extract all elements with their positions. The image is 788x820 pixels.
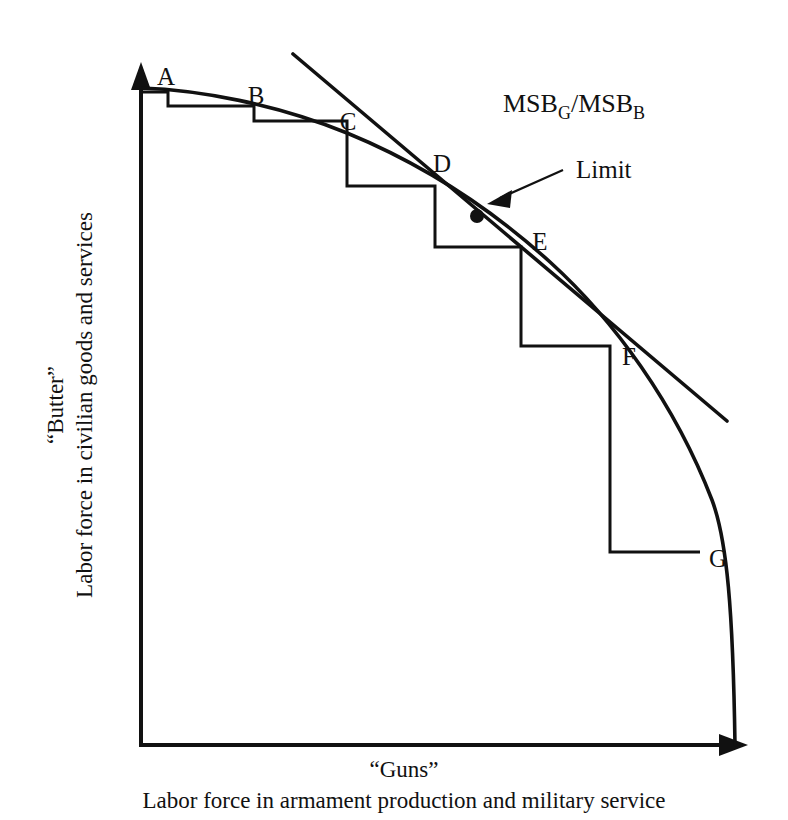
x-axis-subtitle: Labor force in armament production and m… <box>142 788 665 813</box>
y-axis-subtitle: Labor force in civilian goods and servic… <box>72 212 97 598</box>
msb-ratio-label: MSBG/MSBB <box>503 89 645 123</box>
point-label-F: F <box>622 343 636 370</box>
svg-text:MSBG/MSBB: MSBG/MSBB <box>503 89 645 123</box>
point-label-E: E <box>532 228 547 255</box>
x-axis-title: “Guns” <box>370 757 439 782</box>
msb-ratio-base-numerator: MSB <box>503 89 558 118</box>
msb-ratio-subscript-g: G <box>558 103 571 123</box>
point-label-D: D <box>433 150 451 177</box>
point-label-C: C <box>340 108 357 135</box>
point-label-A: A <box>157 63 175 90</box>
msb-ratio-subscript-b: B <box>633 103 645 123</box>
y-axis-title: “Butter” <box>43 366 68 444</box>
limit-annotation-label: Limit <box>576 156 632 183</box>
ppf-diagram: A B C D E F G MSBG/MSBB Limit “Butter” L… <box>0 0 788 820</box>
tangency-point-dot <box>470 209 484 223</box>
msb-ratio-base-denominator: MSB <box>578 89 633 118</box>
point-label-B: B <box>248 82 265 109</box>
point-label-G: G <box>709 545 727 572</box>
